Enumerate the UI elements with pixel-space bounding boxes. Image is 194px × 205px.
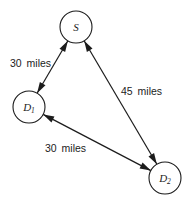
arrowhead-icon bbox=[140, 163, 151, 171]
network-distance-diagram: 30 miles45 miles30 milesSD1D2 bbox=[0, 0, 194, 205]
edge-D1-D2: 30 miles bbox=[43, 114, 151, 170]
figure-page: 30 miles45 miles30 milesSD1D2 bbox=[0, 0, 194, 205]
node-label: S bbox=[73, 21, 79, 33]
edge-distance-label: 45 miles bbox=[121, 85, 162, 97]
arrowhead-icon bbox=[60, 41, 68, 52]
edge-distance-label: 30 miles bbox=[10, 57, 51, 69]
edge-D1-S: 30 miles bbox=[10, 41, 68, 93]
node-S: S bbox=[60, 11, 92, 43]
node-D2: D2 bbox=[149, 162, 181, 194]
edge-S-D2: 45 miles bbox=[84, 41, 162, 164]
arrowhead-icon bbox=[84, 41, 92, 52]
arrowhead-icon bbox=[43, 114, 54, 122]
edge-distance-label: 30 miles bbox=[45, 142, 86, 154]
node-D1: D1 bbox=[13, 91, 45, 123]
edge-line bbox=[84, 41, 157, 164]
arrowhead-icon bbox=[37, 82, 45, 93]
arrowhead-icon bbox=[148, 153, 156, 164]
